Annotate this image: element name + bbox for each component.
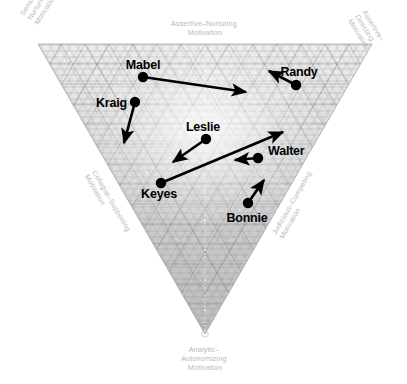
point-walter[interactable] xyxy=(253,153,263,163)
point-randy[interactable] xyxy=(291,80,301,90)
point-kraig[interactable] xyxy=(130,97,140,107)
label-randy: Randy xyxy=(280,65,317,79)
axis-label-top-center: Assertive–Nurturing Motivation xyxy=(171,19,239,37)
point-leslie[interactable] xyxy=(201,134,211,144)
triangle-grid xyxy=(30,30,380,340)
axis-label-top-left: Sensitive– Nurturing Motivation xyxy=(18,0,59,26)
chart-svg: Sensitive– Nurturing Motivation Assertiv… xyxy=(0,0,407,384)
point-mabel[interactable] xyxy=(138,72,148,82)
label-mabel: Mabel xyxy=(126,58,160,72)
triangle-plot-area xyxy=(30,30,380,340)
label-kraig: Kraig xyxy=(96,96,127,110)
label-leslie: Leslie xyxy=(186,120,220,134)
axis-label-bottom: Analytic– Autonomizing Motivation xyxy=(181,345,229,372)
motivation-triangle-chart: Sensitive– Nurturing Motivation Assertiv… xyxy=(0,0,407,384)
label-keyes: Keyes xyxy=(141,187,177,201)
point-bonnie[interactable] xyxy=(243,198,253,208)
label-bonnie: Bonnie xyxy=(226,211,267,225)
label-walter: Walter xyxy=(268,144,305,158)
